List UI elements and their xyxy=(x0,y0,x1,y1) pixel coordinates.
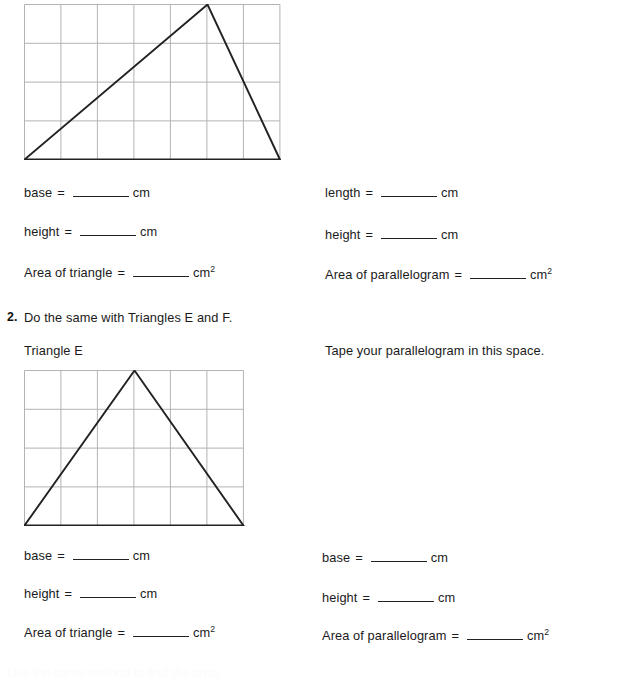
q2-left-height-equals: = xyxy=(59,586,76,601)
triangle-grid-svg-2 xyxy=(24,370,245,526)
q2-right-base-equals: = xyxy=(350,550,367,565)
q1-left-height-equals: = xyxy=(59,224,76,239)
grid-lines-1 xyxy=(25,5,280,160)
q2-right-area-row: Area of parallelogram=cm2 xyxy=(322,628,549,644)
q1-right-area-label: Area of parallelogram xyxy=(325,267,449,282)
q2-right-height-equals: = xyxy=(357,590,374,605)
grid-lines-2 xyxy=(25,371,244,526)
q1-right-area-row: Area of parallelogram=cm2 xyxy=(325,267,552,283)
q2-left-height-blank[interactable] xyxy=(80,586,136,598)
q1-left-height-unit: cm xyxy=(140,224,157,239)
question-2-prompt: Do the same with Triangles E and F. xyxy=(24,310,232,325)
triangle-e-caption: Triangle E xyxy=(24,343,83,358)
q1-right-height-unit: cm xyxy=(441,227,458,242)
question-2-number: 2. xyxy=(7,310,17,324)
triangle-figure-1 xyxy=(24,4,281,160)
q1-left-area-equals: = xyxy=(112,265,129,280)
q2-right-height-label: height xyxy=(322,590,357,605)
q2-right-height-unit: cm xyxy=(438,590,455,605)
q1-left-base-equals: = xyxy=(52,185,69,200)
q2-left-base-blank[interactable] xyxy=(73,548,129,560)
q1-left-base-blank[interactable] xyxy=(73,185,129,197)
q2-right-base-row: base=cm xyxy=(322,550,448,566)
q1-left-height-blank[interactable] xyxy=(80,224,136,236)
q2-left-base-equals: = xyxy=(52,548,69,563)
q1-left-height-row: height=cm xyxy=(24,224,157,240)
q1-left-base-label: base xyxy=(24,185,52,200)
q2-left-height-label: height xyxy=(24,586,59,601)
q1-right-area-equals: = xyxy=(449,267,466,282)
q1-right-area-unit: cm2 xyxy=(530,267,552,282)
q2-left-height-row: height=cm xyxy=(24,586,157,602)
q2-right-area-exponent: 2 xyxy=(544,627,549,637)
q2-right-base-blank[interactable] xyxy=(371,550,427,562)
q2-right-base-unit: cm xyxy=(431,550,448,565)
q1-right-height-label: height xyxy=(325,227,360,242)
q1-right-length-equals: = xyxy=(360,185,377,200)
triangle-grid-svg-1 xyxy=(24,4,281,160)
triangle-figure-2 xyxy=(24,370,245,526)
q2-right-base-label: base xyxy=(322,550,350,565)
q2-right-height-row: height=cm xyxy=(322,590,455,606)
page-bottom-cutoff-text: Use the same method to find the area. xyxy=(7,666,221,680)
q2-left-area-unit: cm2 xyxy=(193,625,215,640)
q2-left-area-row: Area of triangle=cm2 xyxy=(24,625,215,641)
q1-right-height-row: height=cm xyxy=(325,227,458,243)
q1-right-length-label: length xyxy=(325,185,360,200)
q2-left-base-unit: cm xyxy=(133,548,150,563)
q2-left-area-blank[interactable] xyxy=(133,625,189,637)
q1-right-height-equals: = xyxy=(360,227,377,242)
q2-right-height-blank[interactable] xyxy=(378,590,434,602)
q2-left-area-equals: = xyxy=(112,625,129,640)
q1-left-base-unit: cm xyxy=(133,185,150,200)
q2-right-area-blank[interactable] xyxy=(467,628,523,640)
q1-left-height-label: height xyxy=(24,224,59,239)
q2-right-area-label: Area of parallelogram xyxy=(322,628,446,643)
q2-left-base-label: base xyxy=(24,548,52,563)
q1-left-area-exponent: 2 xyxy=(210,264,215,274)
q1-right-length-row: length=cm xyxy=(325,185,458,201)
q2-left-area-label: Area of triangle xyxy=(24,625,112,640)
q1-right-length-unit: cm xyxy=(441,185,458,200)
q2-left-area-exponent: 2 xyxy=(210,624,215,634)
q1-right-length-blank[interactable] xyxy=(381,185,437,197)
q2-right-area-equals: = xyxy=(446,628,463,643)
q1-right-area-blank[interactable] xyxy=(470,267,526,279)
q2-right-area-unit: cm2 xyxy=(527,628,549,643)
q2-left-height-unit: cm xyxy=(140,586,157,601)
q1-left-area-label: Area of triangle xyxy=(24,265,112,280)
q1-left-area-row: Area of triangle=cm2 xyxy=(24,265,215,281)
q1-left-base-row: base=cm xyxy=(24,185,150,201)
tape-space-caption: Tape your parallelogram in this space. xyxy=(325,343,544,358)
q1-left-area-unit: cm2 xyxy=(193,265,215,280)
q1-right-area-exponent: 2 xyxy=(547,266,552,276)
q2-left-base-row: base=cm xyxy=(24,548,150,564)
q1-right-height-blank[interactable] xyxy=(381,227,437,239)
q1-left-area-blank[interactable] xyxy=(133,265,189,277)
